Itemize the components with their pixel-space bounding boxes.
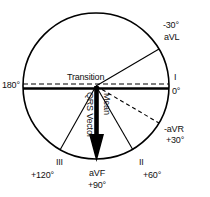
label-degrees-zero: 0° xyxy=(172,86,180,96)
label-lead-avf: aVF xyxy=(82,168,112,178)
label-lead-one: I xyxy=(174,72,176,82)
label-degrees-plus-90: +90° xyxy=(79,180,115,190)
label-lead-three: III xyxy=(56,157,63,167)
axis-line-avl xyxy=(96,49,159,86)
ecg-axis-diagram: -30° aVL I 0° 180° Transition QRS Vector… xyxy=(0,0,210,197)
label-degrees-plus-60: +60° xyxy=(143,170,161,180)
mean-qrs-vector-arrowhead xyxy=(89,134,104,162)
label-transition: Transition xyxy=(67,72,104,82)
label-degrees-180: 180° xyxy=(2,80,20,90)
label-mean: Mean xyxy=(102,93,112,115)
label-qrs-vector: QRS Vector xyxy=(85,92,95,138)
label-lead-two: II xyxy=(139,157,144,167)
label-lead-avl: aVL xyxy=(164,32,179,42)
label-degrees-plus-30: +30° xyxy=(166,135,184,145)
label-degrees-plus-120: +120° xyxy=(31,170,54,180)
label-lead-neg-avr: -aVR xyxy=(164,124,184,134)
label-degrees-minus-30: -30° xyxy=(163,20,179,30)
